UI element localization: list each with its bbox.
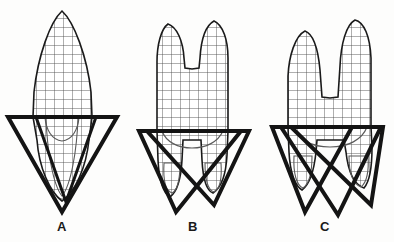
figure-label-a: A bbox=[50, 219, 74, 234]
tooth-triangle-figure: A B C bbox=[0, 0, 394, 242]
figure-label-b: B bbox=[181, 219, 205, 234]
figure-label-c: C bbox=[313, 219, 337, 234]
diagram-canvas bbox=[0, 0, 394, 242]
